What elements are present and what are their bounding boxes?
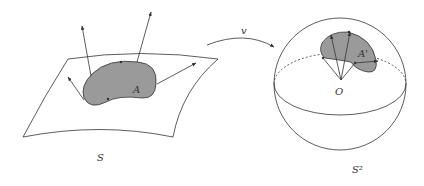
region-a — [83, 61, 156, 105]
label-s: S — [97, 152, 104, 163]
gauss-map-diagram: A S v A' O S² — [0, 0, 424, 186]
label-v: v — [241, 25, 247, 36]
map-arrow-v — [207, 38, 274, 47]
label-o: O — [335, 86, 343, 97]
label-s2: S² — [352, 164, 363, 175]
label-a-prime: A' — [357, 48, 368, 59]
label-a: A — [132, 84, 140, 95]
